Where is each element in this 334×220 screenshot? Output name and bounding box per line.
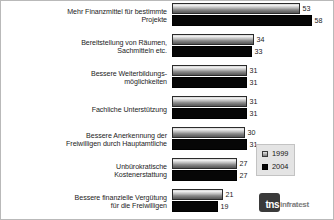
category-label-line: Bessere Weiterbildungs- bbox=[17, 70, 167, 79]
legend-label-2004: 2004 bbox=[272, 162, 288, 171]
bar-1999 bbox=[172, 158, 237, 169]
bar-2004 bbox=[172, 15, 312, 26]
tns-logo-text: tns bbox=[266, 200, 280, 210]
category-label: Fachliche Unterstützung bbox=[17, 105, 167, 114]
tns-logo-mark: tns bbox=[259, 193, 280, 212]
category-label-line: möglichkeiten bbox=[17, 79, 167, 88]
chart-container: Mehr Finanzmittel für bestimmteProjekte5… bbox=[0, 0, 334, 220]
bar-line: 31 bbox=[172, 139, 334, 150]
bar-line: 58 bbox=[172, 15, 334, 26]
category-label-line: Mehr Finanzmittel für bestimmte bbox=[17, 8, 167, 17]
bar-2004 bbox=[172, 108, 247, 119]
bar-value-label: 27 bbox=[237, 160, 247, 168]
chart-legend: 1999 2004 bbox=[256, 144, 295, 176]
bar-value-label: 31 bbox=[247, 98, 257, 106]
bar-value-label: 31 bbox=[247, 79, 257, 87]
bar-1999 bbox=[172, 34, 254, 45]
bar-line: 27 bbox=[172, 158, 334, 169]
bar-group: 3433 bbox=[172, 34, 334, 61]
legend-swatch-1999 bbox=[262, 151, 268, 157]
bar-line: 33 bbox=[172, 46, 334, 57]
category-label-line: Bessere Anerkennung der bbox=[17, 132, 167, 141]
legend-swatch-2004 bbox=[262, 164, 268, 170]
bar-value-label: 33 bbox=[252, 48, 262, 56]
bar-line: 27 bbox=[172, 170, 334, 181]
category-label: Bessere Weiterbildungs-möglichkeiten bbox=[17, 70, 167, 87]
category-label: UnbürokratischeKostenerstattung bbox=[17, 163, 167, 180]
category-label-line: Projekte bbox=[17, 17, 167, 26]
bar-1999 bbox=[172, 3, 300, 14]
bar-row: Bessere Weiterbildungs-möglichkeiten3131 bbox=[1, 63, 334, 94]
bar-value-label: 19 bbox=[218, 203, 228, 211]
bar-line: 31 bbox=[172, 96, 334, 107]
category-label: Bessere finanzielle Vergütungfür die Fre… bbox=[17, 194, 167, 211]
bar-value-label: 27 bbox=[237, 172, 247, 180]
bar-group: 2727 bbox=[172, 158, 334, 185]
legend-item-2004: 2004 bbox=[262, 162, 288, 171]
bar-line: 31 bbox=[172, 65, 334, 76]
bar-group: 3031 bbox=[172, 127, 334, 154]
bar-value-label: 30 bbox=[245, 129, 255, 137]
category-label-line: Freiwilligen durch Hauptamtliche bbox=[17, 141, 167, 150]
bar-value-label: 34 bbox=[254, 36, 264, 44]
bar-2004 bbox=[172, 77, 247, 88]
bar-1999 bbox=[172, 189, 223, 200]
bar-value-label: 53 bbox=[300, 5, 310, 13]
bar-line: 34 bbox=[172, 34, 334, 45]
category-label-line: Kostenerstattung bbox=[17, 172, 167, 181]
bar-line: 31 bbox=[172, 77, 334, 88]
bar-value-label: 31 bbox=[247, 67, 257, 75]
category-label-line: Bereitstellung von Räumen, bbox=[17, 39, 167, 48]
category-label-line: Bessere finanzielle Vergütung bbox=[17, 194, 167, 203]
bar-line: 31 bbox=[172, 108, 334, 119]
bar-line: 30 bbox=[172, 127, 334, 138]
bar-value-label: 31 bbox=[247, 110, 257, 118]
bar-1999 bbox=[172, 96, 247, 107]
bar-2004 bbox=[172, 201, 218, 212]
bar-group: 5358 bbox=[172, 3, 334, 30]
bar-1999 bbox=[172, 127, 245, 138]
category-label: Mehr Finanzmittel für bestimmteProjekte bbox=[17, 8, 167, 25]
legend-item-1999: 1999 bbox=[262, 149, 288, 158]
bar-row: Mehr Finanzmittel für bestimmteProjekte5… bbox=[1, 1, 334, 32]
bar-row: Fachliche Unterstützung3131 bbox=[1, 94, 334, 125]
category-label-line: Sachmitteln etc. bbox=[17, 48, 167, 57]
bar-2004 bbox=[172, 170, 237, 181]
bar-row: Bereitstellung von Räumen,Sachmitteln et… bbox=[1, 32, 334, 63]
bar-group: 3131 bbox=[172, 96, 334, 123]
tns-infratest-logo: tns infratest bbox=[259, 193, 309, 212]
legend-label-1999: 1999 bbox=[272, 149, 288, 158]
category-label: Bereitstellung von Räumen,Sachmitteln et… bbox=[17, 39, 167, 56]
bar-rows: Mehr Finanzmittel für bestimmteProjekte5… bbox=[1, 1, 334, 218]
bar-line: 53 bbox=[172, 3, 334, 14]
bar-line: 21 bbox=[172, 189, 334, 200]
category-label: Bessere Anerkennung derFreiwilligen durc… bbox=[17, 132, 167, 149]
bar-2004 bbox=[172, 46, 252, 57]
bar-group: 2119 bbox=[172, 189, 334, 216]
bar-2004 bbox=[172, 139, 247, 150]
bar-line: 19 bbox=[172, 201, 334, 212]
bar-1999 bbox=[172, 65, 247, 76]
category-label-line: für die Freiwilligen bbox=[17, 203, 167, 212]
bar-value-label: 58 bbox=[312, 17, 322, 25]
infratest-wordmark: infratest bbox=[280, 200, 309, 209]
category-label-line: Unbürokratische bbox=[17, 163, 167, 172]
bar-value-label: 21 bbox=[223, 191, 233, 199]
bar-group: 3131 bbox=[172, 65, 334, 92]
category-label-line: Fachliche Unterstützung bbox=[17, 105, 167, 114]
